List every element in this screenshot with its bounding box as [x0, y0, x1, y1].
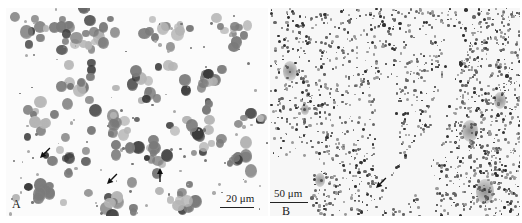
figure: A 20 μm 50 μm B — [0, 0, 522, 223]
